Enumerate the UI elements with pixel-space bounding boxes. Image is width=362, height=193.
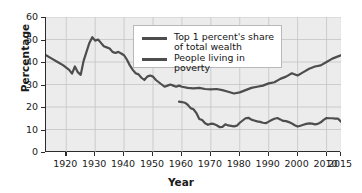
x-tick-mark (94, 152, 95, 156)
y-tick-label: 50 (8, 34, 38, 45)
x-tick-mark (181, 152, 182, 156)
x-tick-mark (123, 152, 124, 156)
y-tick-label: 40 (8, 56, 38, 67)
y-tick-mark (41, 152, 45, 153)
y-tick-label: 20 (8, 101, 38, 112)
x-tick-mark (65, 152, 66, 156)
x-axis-title: Year (0, 176, 362, 188)
x-tick-mark (152, 152, 153, 156)
y-tick-label: 0 (8, 146, 38, 157)
x-tick-mark (340, 152, 341, 156)
x-tick-label: 2015 (320, 158, 360, 169)
legend-label-poverty: People living in poverty (174, 53, 281, 74)
x-tick-mark (326, 152, 327, 156)
legend-swatch-poverty (142, 58, 167, 61)
x-tick-mark (210, 152, 211, 156)
legend-item-poverty: People living in poverty (142, 53, 281, 74)
x-tick-mark (268, 152, 269, 156)
chart-figure: Percentage Year 6050403020100 1920193019… (0, 0, 362, 193)
legend-label-top-wealth: Top 1 percent's share of total wealth (174, 32, 274, 53)
x-tick-mark (239, 152, 240, 156)
x-tick-mark (297, 152, 298, 156)
legend-box: Top 1 percent's share of total wealth Pe… (133, 25, 282, 68)
y-tick-label: 60 (8, 11, 38, 22)
y-tick-label: 10 (8, 124, 38, 135)
series-line-poverty (179, 102, 341, 127)
y-tick-label: 30 (8, 79, 38, 90)
legend-swatch-top-wealth (142, 37, 167, 40)
legend-item-top-wealth: Top 1 percent's share of total wealth (142, 32, 274, 53)
